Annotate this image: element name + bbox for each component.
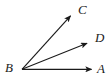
ray-bd [22, 43, 87, 69]
ray-diagram-canvas [0, 0, 109, 83]
point-label-a: A [97, 62, 105, 75]
point-label-c: C [78, 3, 87, 16]
point-label-d: D [95, 31, 104, 44]
ray-bc [22, 16, 71, 70]
geometry-figure: C D B A [0, 0, 109, 83]
ray-group [22, 16, 92, 70]
point-label-b: B [5, 61, 13, 74]
